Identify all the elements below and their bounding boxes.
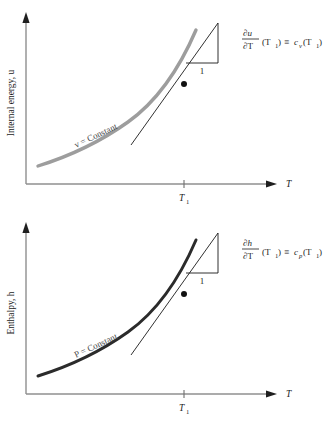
cp-y-axis-arrowhead xyxy=(22,222,29,233)
cp-constant-pressure-curve xyxy=(38,240,196,376)
cv-formula-result-subscript: v xyxy=(299,42,302,49)
cv-x-axis-arrowhead xyxy=(266,180,277,187)
cv-slope-run-label: 1 xyxy=(200,66,205,76)
cv-formula-equiv: ≡ xyxy=(284,37,289,47)
cp-x-axis-label: T xyxy=(286,389,292,399)
cp-formula-equiv: ≡ xyxy=(284,247,289,257)
cp-formula-argument-close: ) xyxy=(278,247,281,257)
cv-tangent-line xyxy=(131,23,218,145)
cp-tangent-line xyxy=(131,233,218,355)
cp-curve-label: P = Constant xyxy=(73,331,120,360)
cp-tangent-point xyxy=(181,291,187,297)
cv-panel: Internal energy, u T 1 v = Constant T 1 xyxy=(6,12,322,205)
cv-formula-result-argument: (T xyxy=(303,37,312,47)
cp-slope-run-label: 1 xyxy=(200,276,205,286)
cp-panel: Enthalpy, h T 1 P = Constant T 1 ∂h xyxy=(6,222,322,415)
cp-formula-argument: (T xyxy=(262,247,271,257)
cv-x-axis-label: T xyxy=(286,179,292,189)
cv-formula-argument-close: ) xyxy=(278,37,281,47)
cv-x-tick-label: T 1 xyxy=(179,193,189,205)
cp-x-tick-label: T 1 xyxy=(179,403,189,415)
cp-formula-denominator: ∂T xyxy=(243,251,253,261)
cv-formula: ∂u ∂T (T 1 ) ≡ c v (T 1 ) xyxy=(242,28,322,51)
cv-x-tick-label-subscript: 1 xyxy=(186,198,189,205)
figure-canvas: Internal energy, u T 1 v = Constant T 1 xyxy=(0,0,331,424)
cv-formula-argument: (T xyxy=(262,37,271,47)
cv-formula-result-close: ) xyxy=(319,37,322,47)
cp-x-tick-label-subscript: 1 xyxy=(186,408,189,415)
cp-y-axis-label: Enthalpy, h xyxy=(6,291,16,334)
cp-formula-result: c xyxy=(294,247,298,257)
cv-tangent-point xyxy=(181,81,187,87)
thermodynamics-figure: Internal energy, u T 1 v = Constant T 1 xyxy=(0,0,331,424)
cp-formula-numerator: ∂h xyxy=(243,238,252,248)
cv-formula-numerator: ∂u xyxy=(243,28,252,38)
cp-formula-result-argument: (T xyxy=(303,247,312,257)
cv-constant-volume-curve xyxy=(38,30,196,166)
cv-formula-result: c xyxy=(294,37,298,47)
cp-x-axis-arrowhead xyxy=(266,390,277,397)
cv-y-axis-arrowhead xyxy=(22,12,29,23)
cv-x-tick-label-text: T xyxy=(179,193,185,203)
cp-formula-result-close: ) xyxy=(319,247,322,257)
cp-x-tick-label-text: T xyxy=(179,403,185,413)
cp-formula: ∂h ∂T (T 1 ) ≡ c p (T 1 ) xyxy=(242,238,322,261)
cv-formula-denominator: ∂T xyxy=(243,41,253,51)
cv-curve-label: v = Constant xyxy=(73,121,119,150)
cv-y-axis-label: Internal energy, u xyxy=(6,70,16,137)
